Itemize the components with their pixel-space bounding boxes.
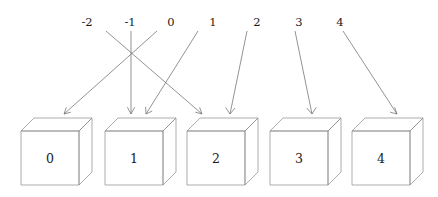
arrow-group bbox=[64, 31, 397, 114]
arrow-from-4 bbox=[343, 31, 397, 114]
cube-label: 3 bbox=[295, 151, 303, 166]
index-label: 3 bbox=[295, 15, 302, 29]
index-label: -1 bbox=[124, 15, 135, 29]
cube-label: 4 bbox=[377, 151, 385, 166]
cube-bucket-4[interactable]: 4 bbox=[352, 118, 423, 185]
index-label-group: -2 -1 0 1 2 3 4 bbox=[81, 15, 343, 29]
cube-bucket-3[interactable]: 3 bbox=[270, 118, 341, 185]
arrow-from--1 bbox=[127, 31, 134, 114]
index-label: 4 bbox=[336, 15, 343, 29]
cube-label: 0 bbox=[46, 151, 54, 166]
arrow-shaft bbox=[343, 31, 397, 114]
cube-side-face bbox=[163, 118, 176, 185]
cube-side-face bbox=[410, 118, 423, 185]
cube-group: 0 1 2 3 bbox=[21, 118, 423, 185]
cube-label: 2 bbox=[212, 151, 220, 166]
cube-bucket-0[interactable]: 0 bbox=[21, 118, 92, 185]
index-label: 2 bbox=[253, 15, 260, 29]
cube-bucket-2[interactable]: 2 bbox=[187, 118, 258, 185]
arrow-from-0 bbox=[64, 31, 157, 114]
cube-bucket-1[interactable]: 1 bbox=[105, 118, 176, 185]
index-label: 1 bbox=[209, 15, 216, 29]
cube-label: 1 bbox=[130, 151, 138, 166]
arrow-from-3 bbox=[295, 31, 316, 114]
cube-side-face bbox=[328, 118, 341, 185]
hash-mapping-figure: -2 -1 0 1 2 3 4 bbox=[0, 0, 438, 197]
arrow-shaft bbox=[295, 31, 312, 114]
cube-side-face bbox=[245, 118, 258, 185]
diagram-canvas: -2 -1 0 1 2 3 4 bbox=[0, 0, 438, 197]
index-label: -2 bbox=[81, 15, 92, 29]
cube-side-face bbox=[79, 118, 92, 185]
arrow-from-2 bbox=[226, 31, 247, 114]
arrow-shaft bbox=[64, 31, 157, 114]
arrow-shaft bbox=[230, 31, 247, 114]
index-label: 0 bbox=[167, 15, 174, 29]
